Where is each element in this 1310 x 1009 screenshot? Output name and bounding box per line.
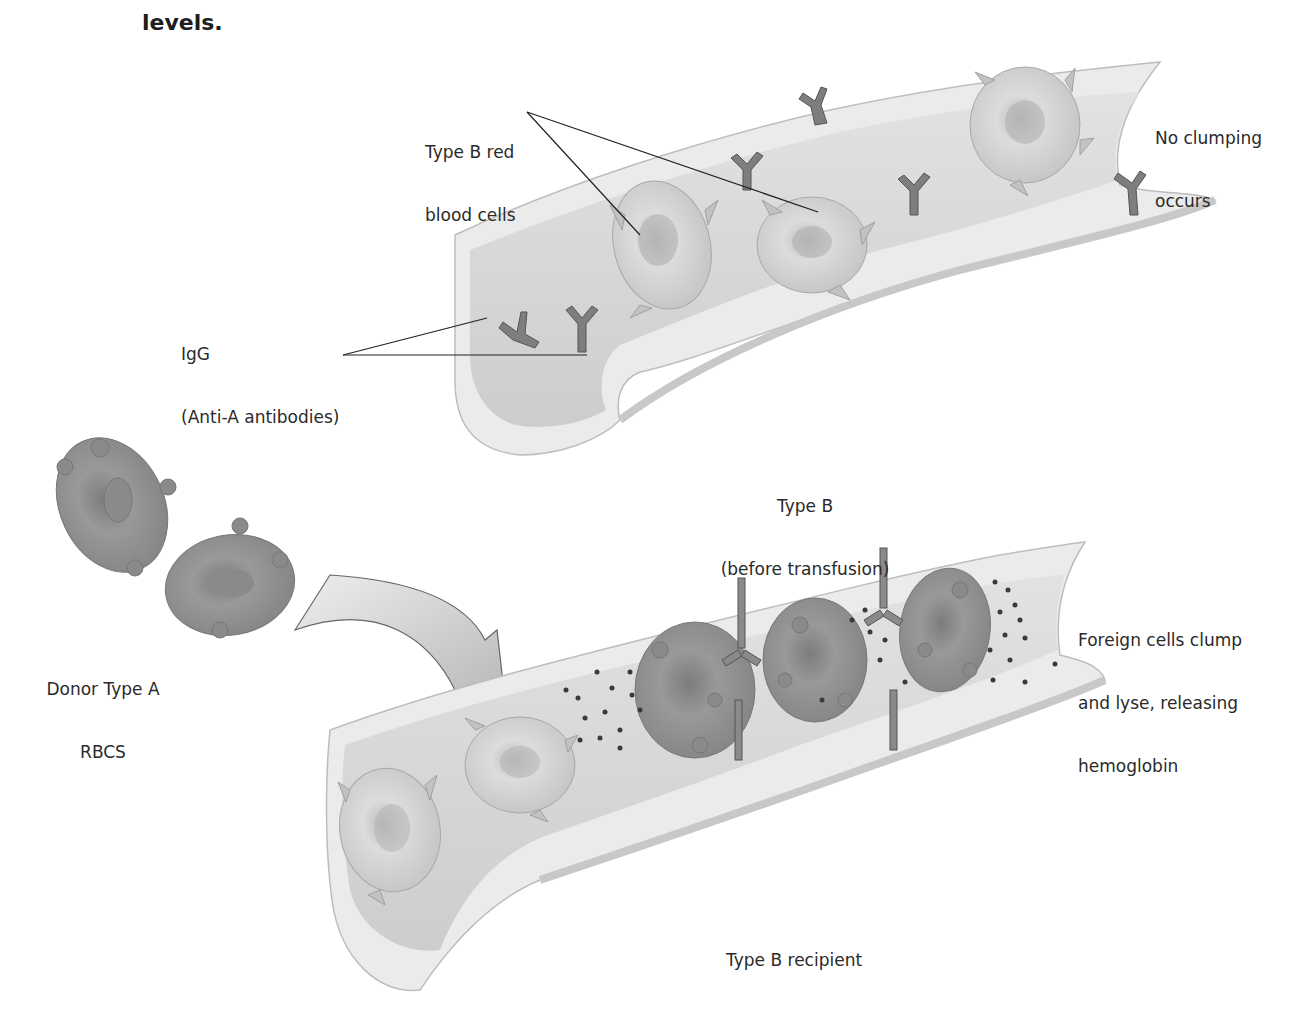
caption-line: Type B recipient [726,950,912,971]
label-line: and lyse, releasing [1078,693,1242,714]
label-line: Donor Type A [18,679,188,700]
label-line: hemoglobin [1078,756,1242,777]
label-line: (Anti-A antibodies) [181,407,339,428]
label-line: Foreign cells clump [1078,630,1242,651]
caption-after-transfusion: Type B recipient (after transfusion of m… [726,908,912,1009]
label-line: No clumping [1155,128,1262,149]
diagram-artwork [0,0,1310,1009]
label-line: IgG [181,344,339,365]
label-donor-type-a: Donor Type A RBCS [18,637,188,784]
transfusion-arrow [295,575,505,702]
label-line: blood cells [425,205,516,226]
label-line: RBCS [18,742,188,763]
label-line: Type B red [425,142,516,163]
label-foreign-cells-clump: Foreign cells clump and lyse, releasing … [1078,588,1242,798]
label-line: occurs [1155,191,1262,212]
caption-line: (before transfusion) [705,559,905,580]
label-igg: IgG (Anti-A antibodies) [181,302,339,449]
label-no-clumping: No clumping occurs [1155,86,1262,233]
label-type-b-rbc: Type B red blood cells [425,100,516,247]
caption-before-transfusion: Type B (before transfusion) [705,454,905,601]
caption-line: Type B [705,496,905,517]
donor-type-a-rbcs [35,420,302,646]
